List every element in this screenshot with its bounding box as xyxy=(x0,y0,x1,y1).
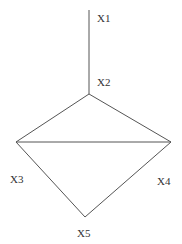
edge-x2-x3 xyxy=(16,94,89,142)
node-labels: X1 X2 X3 X4 X5 xyxy=(10,12,171,239)
node-label-x1: X1 xyxy=(97,12,110,24)
edge-x3-x5 xyxy=(16,142,85,217)
node-label-x4: X4 xyxy=(157,175,171,187)
node-label-x2: X2 xyxy=(97,76,110,88)
edge-x2-x4 xyxy=(89,94,171,142)
node-label-x3: X3 xyxy=(10,173,24,185)
node-label-x5: X5 xyxy=(77,227,91,239)
graph-diagram: X1 X2 X3 X4 X5 xyxy=(0,0,182,244)
edges xyxy=(16,10,171,217)
